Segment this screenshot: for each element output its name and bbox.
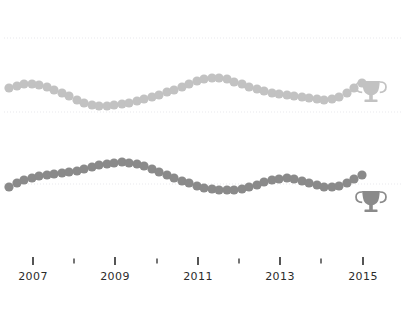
trophy-markers <box>356 81 386 212</box>
top-series-point <box>334 92 343 101</box>
bottom-series-point <box>94 160 103 169</box>
bottom-series-point <box>109 158 118 167</box>
bottom-series-point <box>289 174 298 183</box>
bottom-series-point <box>229 185 238 194</box>
series-top-points <box>4 73 366 110</box>
bottom-series-point <box>79 164 88 173</box>
bottom-series-point <box>304 178 313 187</box>
bottom-series-point <box>124 158 133 167</box>
top-series-point <box>79 98 88 107</box>
axis-label-2013: 2013 <box>265 270 295 283</box>
top-series-point <box>259 86 268 95</box>
axis-label-2015: 2015 <box>348 270 378 283</box>
bottom-series-point <box>49 169 58 178</box>
top-series-point <box>214 73 223 82</box>
top-series-point <box>19 79 28 88</box>
top-series-point <box>49 85 58 94</box>
bottom-series-point <box>169 173 178 182</box>
bottom-series-point <box>139 161 148 170</box>
top-series-point <box>34 80 43 89</box>
bottom-series-point <box>199 183 208 192</box>
bottom-series-point <box>244 182 253 191</box>
top-series-point <box>229 77 238 86</box>
trophy-icon-bottom <box>356 191 386 212</box>
top-series-point <box>94 101 103 110</box>
top-series-point <box>124 98 133 107</box>
axis-label-2011: 2011 <box>183 270 213 283</box>
gridlines <box>4 38 401 184</box>
bottom-series-point <box>154 167 163 176</box>
bottom-series-point <box>357 170 366 179</box>
bottom-series-point <box>274 174 283 183</box>
x-axis-labels: 20072009201120132015 <box>18 270 378 283</box>
top-series-point <box>304 93 313 102</box>
top-series-point <box>244 82 253 91</box>
bottom-series-point <box>19 175 28 184</box>
bottom-series-point <box>184 178 193 187</box>
top-series-point <box>64 91 73 100</box>
top-series-point <box>139 94 148 103</box>
chart-canvas: 20072009201120132015 <box>0 0 409 312</box>
bottom-series-point <box>259 177 268 186</box>
axis-label-2007: 2007 <box>18 270 48 283</box>
axis-label-2009: 2009 <box>100 270 130 283</box>
top-series-point <box>319 95 328 104</box>
top-series-point <box>184 79 193 88</box>
top-series-point <box>4 83 13 92</box>
bottom-series-point <box>4 182 13 191</box>
bottom-series-point <box>349 174 358 183</box>
bottom-series-point <box>64 167 73 176</box>
sparkline-figure: 20072009201120132015 <box>0 0 409 312</box>
top-series-point <box>289 91 298 100</box>
top-series-point <box>109 100 118 109</box>
top-series-point <box>154 90 163 99</box>
top-series-point <box>169 85 178 94</box>
x-axis <box>33 257 363 265</box>
bottom-series-point <box>334 181 343 190</box>
series-bottom-points <box>4 157 366 194</box>
top-series-point <box>274 89 283 98</box>
top-series-point <box>199 74 208 83</box>
bottom-series-point <box>214 185 223 194</box>
bottom-series-point <box>34 171 43 180</box>
bottom-series-point <box>319 182 328 191</box>
